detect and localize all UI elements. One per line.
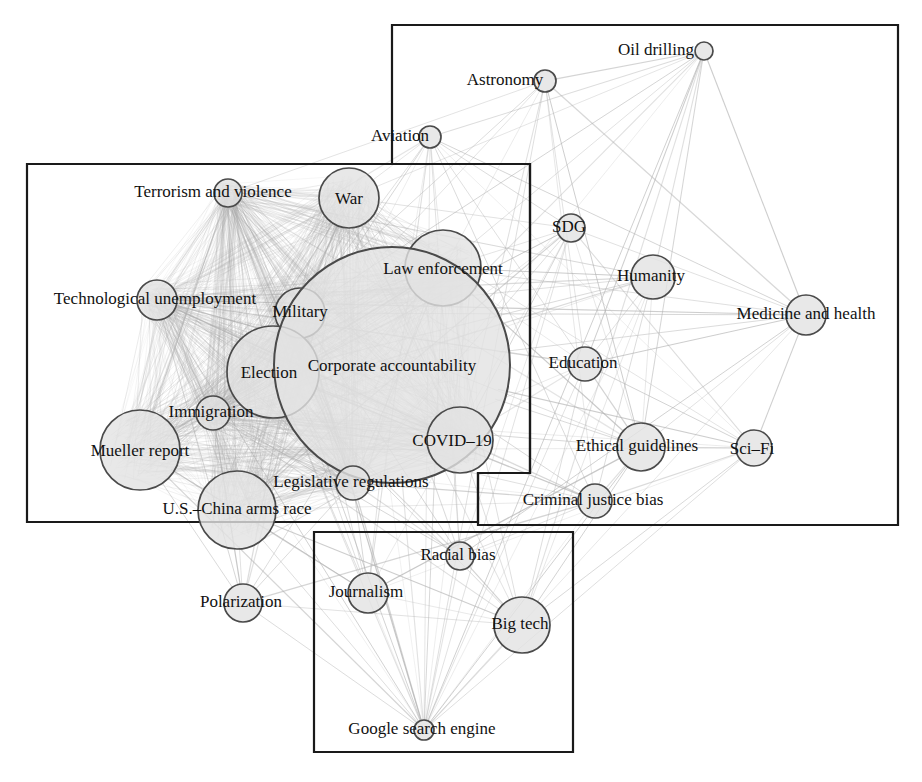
node-terrorism_and_violence[interactable] [214,179,242,207]
node-war[interactable] [319,168,379,228]
edge [426,569,458,721]
edge [440,54,696,135]
edge [469,566,505,606]
edge [439,143,561,222]
edge [430,644,504,724]
edge [439,141,789,307]
node-journalism[interactable] [348,573,388,613]
node-aviation[interactable] [419,126,441,148]
node-oil_drilling[interactable] [695,42,713,60]
edge [495,284,634,331]
edge [257,613,416,725]
node-immigration[interactable] [196,396,230,430]
edge [470,56,698,245]
node-big_tech[interactable] [494,597,550,653]
node-humanity[interactable] [631,255,675,299]
node-criminal_justice_bias[interactable] [578,484,612,518]
node-medicine_and_health[interactable] [786,295,826,335]
node-us_china_arms_race[interactable] [198,471,276,549]
node-sdg[interactable] [557,214,585,242]
edge [658,59,703,257]
node-astronomy[interactable] [534,70,556,92]
edge-filler [225,177,333,184]
node-mueller_report[interactable] [100,410,180,490]
node-covid_19[interactable] [427,407,493,473]
edge [267,529,352,583]
node-technological_unemployment[interactable] [137,280,177,320]
node-education[interactable] [568,347,602,381]
edge [371,143,422,181]
node-polarization[interactable] [224,584,262,622]
edge [707,59,799,298]
network-graph-figure: Oil drillingAstronomyAviationTerrorism a… [0,0,922,782]
node-ethical_guidelines[interactable] [617,423,665,471]
edge [240,84,535,188]
edge [469,57,699,288]
network-canvas [0,0,922,782]
node-racial_bias[interactable] [446,542,474,570]
edge [431,147,440,233]
edge [658,327,791,434]
node-google_search_engine[interactable] [414,720,434,740]
node-sci_fi[interactable] [736,430,772,466]
node-legislative_regulations[interactable] [336,466,370,500]
